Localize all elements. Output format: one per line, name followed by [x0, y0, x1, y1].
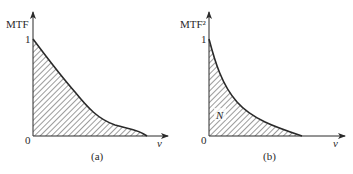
caption-b: (b)	[263, 150, 276, 163]
mtf-diagram: MTF 1 0 ν (a) N MTF² 1 0 ν (b)	[0, 0, 353, 174]
x-axis-label-a: ν	[157, 137, 162, 149]
y-tick-1-a: 1	[25, 33, 31, 45]
y-axis-label-a: MTF	[6, 18, 29, 30]
hatched-area-a	[33, 39, 147, 136]
y-axis-label-b: MTF²	[180, 18, 207, 30]
panel-a: MTF 1 0 ν (a)	[6, 12, 168, 163]
caption-a: (a)	[91, 150, 104, 163]
y-tick-1-b: 1	[201, 33, 207, 45]
panel-b: N MTF² 1 0 ν (b)	[180, 12, 345, 163]
origin-label-a: 0	[25, 134, 31, 146]
area-label-n: N	[215, 109, 224, 121]
hatched-area-b	[209, 39, 302, 136]
x-axis-label-b: ν	[333, 137, 338, 149]
origin-label-b: 0	[201, 134, 207, 146]
